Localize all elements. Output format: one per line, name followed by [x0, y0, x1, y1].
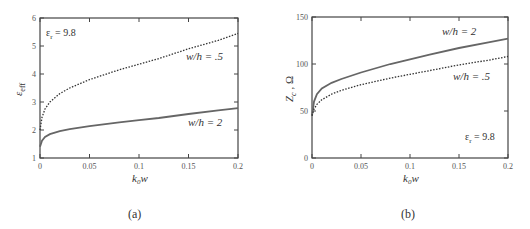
svg-text:0.05: 0.05: [354, 162, 368, 171]
er-annotation-b: εr = 9.8: [465, 131, 495, 145]
svg-text:0.15: 0.15: [182, 162, 196, 171]
svg-text:150: 150: [296, 13, 308, 22]
y-axis-label-a: εeff: [12, 83, 27, 96]
y-axis-label-b: Zc , Ω: [283, 76, 298, 102]
svg-text:0.1: 0.1: [134, 162, 144, 171]
axis-ticks-b: 00.050.10.150.2050100150: [296, 13, 513, 171]
svg-text:0.15: 0.15: [452, 162, 466, 171]
x-axis-label-a: k0w: [132, 172, 148, 186]
chart-panel-b: 00.050.10.150.2050100150 w/h = 2 w/h = .…: [283, 13, 513, 221]
caption-b: (b): [401, 207, 415, 221]
series-label-wh05-a: w/h = .5: [186, 50, 224, 62]
svg-text:3: 3: [32, 98, 36, 107]
svg-text:0.05: 0.05: [83, 162, 97, 171]
svg-text:2: 2: [32, 126, 36, 135]
series-line: [312, 57, 508, 116]
svg-text:100: 100: [296, 60, 308, 69]
svg-text:4: 4: [32, 70, 36, 79]
svg-text:0: 0: [304, 154, 308, 163]
svg-text:0.2: 0.2: [233, 162, 243, 171]
svg-text:1: 1: [32, 154, 36, 163]
series-label-wh2-b: w/h = 2: [442, 25, 477, 37]
svg-text:6: 6: [32, 14, 36, 23]
svg-text:0: 0: [38, 162, 42, 171]
caption-a: (a): [128, 207, 141, 221]
er-annotation-a: εr = 9.8: [46, 27, 76, 41]
chart-panel-a: 00.050.10.150.2123456 εr = 9.8 w/h = .5 …: [12, 14, 243, 221]
svg-text:0.2: 0.2: [503, 162, 513, 171]
svg-text:5: 5: [32, 42, 36, 51]
x-axis-label-b: k0w: [403, 172, 419, 186]
series-label-wh2-a: w/h = 2: [188, 116, 223, 128]
series-label-wh05-b: w/h = .5: [453, 70, 491, 82]
svg-text:0: 0: [310, 162, 314, 171]
svg-text:50: 50: [300, 107, 308, 116]
svg-text:0.1: 0.1: [405, 162, 415, 171]
figure: 00.050.10.150.2123456 εr = 9.8 w/h = .5 …: [0, 0, 530, 229]
